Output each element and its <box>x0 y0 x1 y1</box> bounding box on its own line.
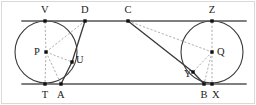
point-P-label: P <box>34 47 40 58</box>
point-D <box>83 19 86 22</box>
point-V <box>43 19 46 22</box>
tangent-chord-segments <box>61 21 204 84</box>
point-T <box>43 82 46 85</box>
point-Y-label: Y <box>184 69 192 80</box>
point-X <box>210 82 213 85</box>
point-A-label: A <box>57 90 65 101</box>
segment-C-Y-B <box>128 21 204 84</box>
point-D-label: D <box>81 5 89 16</box>
point-Q <box>210 50 213 53</box>
segment-Q-B <box>204 52 212 84</box>
radius-Q-Y <box>193 52 212 72</box>
radius-P-V <box>45 21 46 52</box>
segment-D-U-A <box>61 21 85 84</box>
point-Q-label: Q <box>217 47 225 58</box>
point-Z <box>210 19 213 22</box>
radius-P-T <box>45 52 46 84</box>
geometry-figure: VDCZPQUYTABX <box>0 0 256 105</box>
point-U <box>70 60 73 63</box>
point-T-label: T <box>42 90 49 101</box>
point-P <box>44 50 47 53</box>
segment-P-D <box>46 21 85 52</box>
point-B-label: B <box>200 90 207 101</box>
point-Z-label: Z <box>209 5 216 16</box>
point-V-label: V <box>41 5 49 16</box>
circles-group <box>15 21 243 83</box>
point-A <box>59 82 62 85</box>
point-U-label: U <box>76 55 84 66</box>
point-C <box>126 19 129 22</box>
point-B <box>202 82 205 85</box>
point-X-label: X <box>212 90 220 101</box>
point-C-label: C <box>124 5 131 16</box>
segment-C-Q <box>128 21 212 52</box>
